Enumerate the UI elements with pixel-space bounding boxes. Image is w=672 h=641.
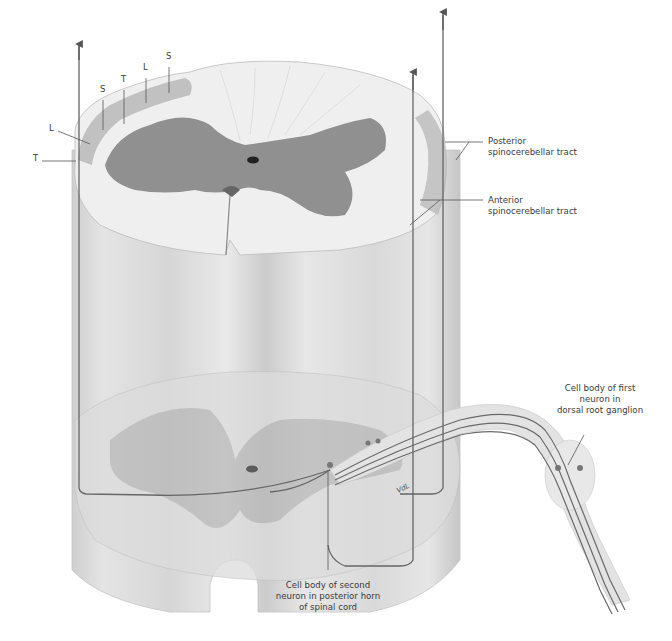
posterior-spinocerebellar-tract-label: Posterior spinocerebellar tract [488,136,577,158]
segment-label-l-lower: L [49,123,54,133]
upper-cross-section [75,61,447,255]
spinal-cord-diagram: VdL T L S T L S Posterior spinocerebella… [0,0,672,641]
segment-label-t-upper: T [121,74,126,84]
spinal-cord-illustration: VdL [0,0,672,641]
segment-label-l-upper: L [143,62,148,72]
segment-label-t-lower: T [33,153,38,163]
lower-cross-section [75,371,460,580]
segment-label-s-lower: S [100,84,105,94]
anterior-spinocerebellar-tract-label: Anterior spinocerebellar tract [488,195,577,217]
second-neuron-label: Cell body of second neuron in posterior … [262,580,394,613]
first-neuron-label: Cell body of first neuron in dorsal root… [540,383,660,416]
segment-label-s-upper: S [166,51,171,61]
